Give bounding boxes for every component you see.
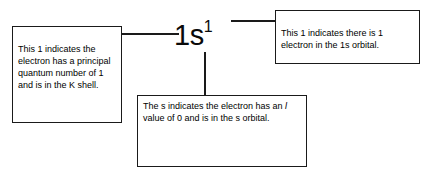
angular-momentum-symbol: l — [285, 101, 287, 111]
connector-line-subshell — [204, 52, 206, 96]
orbital-notation: 1s1 — [174, 12, 213, 50]
orbital-notation-base: 1s — [174, 19, 204, 51]
callout-box-electron-count: This 1 indicates there is 1 electron in … — [275, 10, 420, 64]
callout-text-subshell-s-before: The s indicates the electron has an — [143, 101, 285, 111]
callout-text-electron-count: This 1 indicates there is 1 electron in … — [281, 28, 383, 50]
orbital-notation-superscript: 1 — [204, 18, 213, 35]
electron-configuration-diagram: This 1 indicates the electron has a prin… — [0, 0, 435, 179]
callout-text-principal-quantum-number: This 1 indicates the electron has a prin… — [18, 44, 111, 90]
callout-box-subshell-s: The s indicates the electron has an l va… — [137, 95, 307, 167]
connector-line-electron-count — [231, 20, 276, 22]
callout-text-subshell-s-after: value of 0 and is in the s orbital. — [143, 113, 270, 123]
callout-box-principal-quantum-number: This 1 indicates the electron has a prin… — [12, 26, 122, 123]
connector-line-principal — [122, 33, 179, 35]
